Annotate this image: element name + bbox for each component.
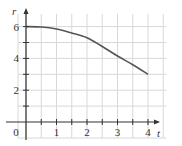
- ticks: 01234246: [13, 21, 151, 138]
- y-tick-label: 6: [14, 21, 20, 33]
- x-tick-label: 0: [13, 126, 19, 138]
- chart: 01234246 r t: [0, 0, 182, 146]
- x-axis-label: t: [157, 127, 161, 139]
- x-tick-label: 1: [54, 126, 60, 138]
- y-tick-label: 2: [14, 84, 20, 96]
- x-tick-label: 3: [115, 126, 121, 138]
- y-axis-label: r: [12, 5, 17, 17]
- grid-lines: [18, 14, 166, 138]
- x-axis-arrow-icon: [154, 120, 160, 125]
- x-tick-label: 2: [84, 126, 90, 138]
- x-tick-label: 4: [145, 126, 151, 138]
- y-tick-label: 4: [14, 52, 20, 64]
- y-axis-arrow-icon: [24, 8, 29, 14]
